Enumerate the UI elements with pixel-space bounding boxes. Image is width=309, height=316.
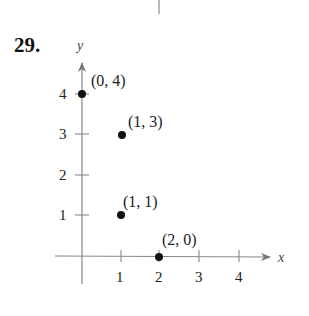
point-label: (0, 4)	[91, 72, 126, 90]
data-point	[117, 211, 125, 219]
problem-number: 29.	[14, 33, 40, 57]
data-point	[78, 90, 86, 98]
y-tick-label: 4	[59, 86, 67, 102]
data-point	[118, 131, 126, 139]
x-tick-label: 2	[155, 269, 163, 285]
y-axis-label: y	[75, 38, 84, 53]
point-label: (1, 1)	[123, 193, 158, 211]
point-label: (2, 0)	[162, 231, 197, 249]
data-point	[155, 253, 163, 261]
x-axis-label: x	[277, 250, 285, 265]
y-tick-label: 3	[59, 126, 67, 142]
point-label: (1, 3)	[128, 113, 163, 131]
x-tick-label: 3	[195, 269, 203, 285]
x-tick-label: 4	[235, 269, 243, 285]
x-tick-label: 1	[116, 269, 124, 285]
y-tick-label: 2	[59, 167, 67, 183]
y-tick-label: 1	[59, 207, 67, 223]
chart-canvas: 29. y x 1 2 3 4 1 2 3 4 (0, 4) (1, 3) (1…	[0, 0, 309, 316]
